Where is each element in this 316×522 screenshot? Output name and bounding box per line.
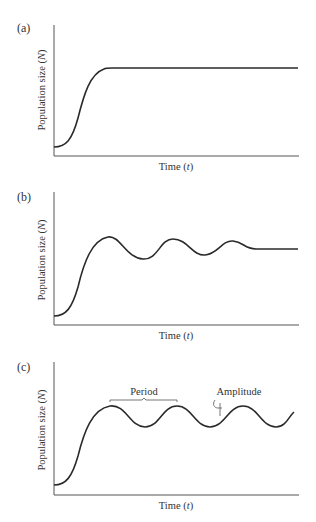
y-axis-label: Population size (N) (36, 219, 48, 301)
y-axis-label: Population size (N) (36, 49, 48, 131)
x-axis-label: Time (t) (159, 161, 194, 173)
panel-label: (b) (17, 190, 31, 204)
period-annotation: Period (130, 386, 158, 397)
panel-c: (c) Period Amplitude Time (t) Population… (17, 360, 299, 512)
amplitude-annotation: Amplitude (217, 386, 262, 397)
population-curve (54, 68, 298, 147)
panel-label: (c) (17, 360, 30, 374)
y-axis-label: Population size (N) (36, 389, 48, 471)
panel-b: (b) Time (t) Population size (N) (17, 190, 299, 342)
x-axis-label: Time (t) (159, 330, 194, 342)
population-curve (54, 237, 298, 316)
amplitude-brace (214, 400, 222, 416)
axes (54, 362, 299, 495)
panel-a: (a) Time (t) Population size (N) (17, 21, 299, 173)
axes (54, 25, 299, 156)
axes (54, 192, 299, 325)
population-curve (54, 406, 294, 485)
figure-canvas: (a) Time (t) Population size (N) (b) Tim… (0, 0, 316, 522)
x-axis-label: Time (t) (159, 500, 194, 512)
period-bracket (110, 398, 177, 402)
panel-label: (a) (17, 21, 30, 35)
